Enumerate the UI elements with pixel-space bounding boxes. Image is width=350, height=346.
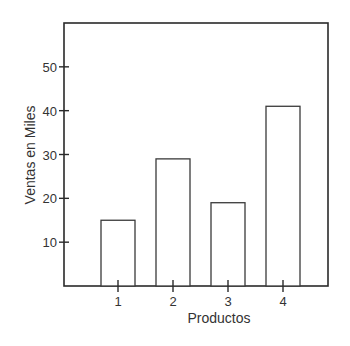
x-tick-label: 3 bbox=[224, 294, 231, 309]
bar-3 bbox=[211, 203, 245, 286]
bar-4 bbox=[266, 106, 300, 286]
x-tick-label: 4 bbox=[279, 294, 286, 309]
x-axis-ticks: 1234 bbox=[114, 280, 286, 309]
y-tick-label: 10 bbox=[43, 235, 57, 250]
x-tick-label: 1 bbox=[114, 294, 121, 309]
x-tick-label: 2 bbox=[169, 294, 176, 309]
bars bbox=[101, 106, 300, 286]
y-tick-label: 20 bbox=[43, 191, 57, 206]
y-axis-label: Ventas en Miles bbox=[22, 106, 38, 205]
x-axis-label: Productos bbox=[187, 310, 250, 326]
bar-chart: 1020304050 1234 Productos Ventas en Mile… bbox=[0, 0, 350, 346]
bar-2 bbox=[156, 159, 190, 286]
y-tick-label: 50 bbox=[43, 60, 57, 75]
y-tick-label: 40 bbox=[43, 104, 57, 119]
bar-1 bbox=[101, 220, 135, 286]
y-axis-ticks: 1020304050 bbox=[43, 60, 69, 250]
y-tick-label: 30 bbox=[43, 148, 57, 163]
